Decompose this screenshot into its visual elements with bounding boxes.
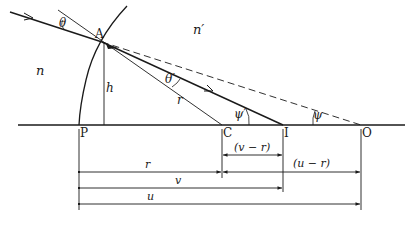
r-dimension-label: r xyxy=(145,158,151,171)
point-a-label: A xyxy=(94,27,104,41)
point-p-label: P xyxy=(80,126,88,140)
medium-n-label: n xyxy=(36,63,44,78)
theta-prime-label: θ′ xyxy=(165,72,175,86)
u-minus-r-label: (u − r) xyxy=(293,157,330,170)
radius-r-label: r xyxy=(177,93,184,107)
point-i-label: I xyxy=(284,126,289,140)
point-c-label: C xyxy=(223,126,232,140)
refraction-diagram: θ A n′ n h θ′ r ψ′ ψ P C I O (v − r) r (… xyxy=(0,0,409,227)
v-dimension-label: v xyxy=(175,174,182,187)
medium-n-prime-label: n′ xyxy=(193,22,204,37)
theta-label: θ xyxy=(59,16,67,30)
incident-ray xyxy=(10,12,102,42)
u-dimension-label: u xyxy=(147,190,154,203)
psi-prime-angle-arc xyxy=(246,109,249,125)
height-h-label: h xyxy=(106,81,114,95)
point-o-label: O xyxy=(362,126,372,140)
refracted-ray xyxy=(102,42,283,125)
psi-label: ψ xyxy=(313,108,323,122)
psi-prime-label: ψ′ xyxy=(234,107,246,121)
v-minus-r-label: (v − r) xyxy=(234,141,270,154)
refracting-surface-arc xyxy=(79,6,127,125)
